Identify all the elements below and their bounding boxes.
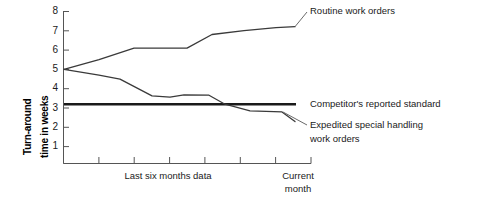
series-label-routine: Routine work orders — [310, 5, 395, 17]
leader-line-expedited — [283, 112, 307, 125]
series-line-routine — [64, 27, 295, 70]
series-label-competitor-standard: Competitor's reported standard — [310, 98, 441, 110]
y-tick-label-8: 8 — [44, 5, 58, 16]
y-axis-ticks — [64, 12, 70, 147]
y-tick-label-5: 5 — [44, 63, 58, 74]
x-axis-label-last-six-months: Last six months data — [88, 170, 248, 182]
turnaround-time-line-chart: Turn-around time in weeks 8 7 6 5 4 3 2 … — [0, 0, 479, 210]
series-label-expedited-line2: work orders — [310, 133, 360, 145]
y-tick-label-3: 3 — [44, 102, 58, 113]
x-axis-label-current-month-line2: month — [248, 183, 348, 195]
x-axis-label-current-month-line1: Current — [248, 170, 348, 182]
y-tick-label-1: 1 — [44, 140, 58, 151]
leader-line-routine — [295, 12, 307, 27]
y-tick-label-2: 2 — [44, 121, 58, 132]
y-axis-title-line1: Turn-around — [22, 99, 33, 156]
y-tick-label-7: 7 — [44, 25, 58, 36]
y-tick-label-4: 4 — [44, 82, 58, 93]
series-line-expedited — [64, 69, 295, 121]
series-label-expedited-line1: Expedited special handling — [310, 119, 423, 131]
y-axis-title: Turn-around — [22, 99, 33, 156]
x-axis-ticks — [64, 157, 312, 164]
y-tick-label-6: 6 — [44, 44, 58, 55]
